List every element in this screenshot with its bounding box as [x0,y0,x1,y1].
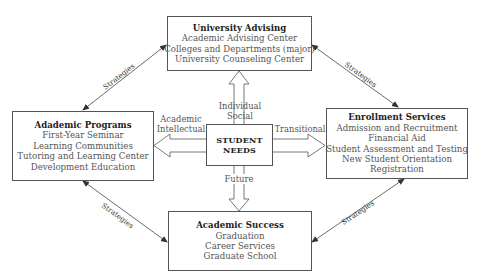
student-needs-line1: STUDENT [216,135,262,145]
need-label-left: Academic Intellectual [156,114,206,134]
block-arrow-left [154,134,206,157]
academic-programs-item: Learning Communities [33,141,133,151]
academic-programs-item: First-Year Seminar [42,130,123,140]
block-arrow-right [272,134,325,157]
need-label-academic: Academic [156,114,206,124]
enrollment-services-item: Financial Aid [368,133,426,143]
enrollment-services-item: Admission and Recruitment [337,123,458,133]
academic-programs-item: Development Education [31,162,135,172]
academic-programs-title: Adademic Programs [34,120,131,130]
need-label-up: Individual Social [214,101,266,121]
enrollment-services-box: Enrollment Services Admission and Recrui… [326,108,468,179]
student-needs-line2: NEEDS [223,145,256,155]
academic-success-box: Academic Success Graduation Career Servi… [168,211,312,271]
student-needs-box: STUDENT NEEDS [206,124,273,166]
enrollment-services-item: New Student Orientation [342,154,452,164]
need-label-intellectual: Intellectual [156,124,206,134]
university-advising-title: University Advising [193,23,286,33]
enrollment-services-title: Enrollment Services [348,112,445,122]
academic-programs-box: Adademic Programs First-Year Seminar Lea… [12,111,154,181]
academic-success-item: Graduate School [204,251,277,261]
university-advising-item: University Counseling Center [175,54,304,64]
enrollment-services-item: Student Assessment and Testing [326,144,468,154]
university-advising-item: Academic Advising Center [182,33,297,43]
need-label-transitional: Transitional [274,124,326,134]
university-advising-item: Colleges and Departments (major) [164,44,314,54]
university-advising-box: University Advising Academic Advising Ce… [167,16,312,71]
academic-programs-item: Tutoring and Learning Center [17,151,148,161]
strategies-arrow-bottom-left [83,181,167,242]
academic-success-item: Career Services [205,241,275,251]
need-label-social: Social [214,111,266,121]
enrollment-services-item: Registration [370,164,424,174]
academic-success-item: Graduation [215,231,264,241]
need-label-individual: Individual [214,101,266,111]
block-arrow-down [229,165,249,211]
academic-success-title: Academic Success [196,220,284,230]
need-label-future: Future [220,174,258,184]
